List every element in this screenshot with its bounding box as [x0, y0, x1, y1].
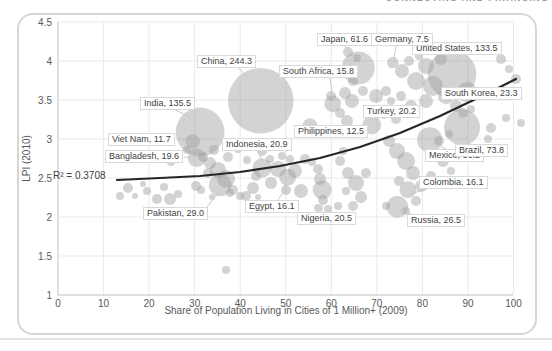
background-bubble [358, 86, 368, 96]
country-label-china: China, 244.3 [197, 55, 256, 68]
background-bubble [143, 187, 151, 195]
country-label-germany: Germany, 7.5 [371, 33, 433, 46]
bubble-colombia [399, 181, 416, 198]
background-bubble [286, 155, 294, 163]
bubble-germany [387, 57, 399, 69]
background-bubble [486, 123, 496, 133]
background-bubble [396, 91, 406, 101]
background-bubble [123, 183, 133, 193]
country-label-nigeria: Nigeria, 20.5 [297, 212, 356, 225]
background-bubble [404, 56, 414, 66]
country-label-philippines: Philippines, 12.5 [294, 125, 368, 138]
background-bubble [132, 193, 138, 199]
background-bubble [407, 72, 425, 90]
country-label-russia: Russia, 26.5 [407, 214, 465, 227]
background-bubble [348, 201, 358, 211]
background-bubble [419, 94, 433, 108]
background-bubble [152, 194, 162, 204]
background-bubble [265, 177, 277, 189]
country-label-india: India, 135.5 [140, 97, 195, 110]
background-bubble [406, 166, 420, 180]
page-bottom-rule [0, 338, 552, 340]
country-label-indonesia: Indonesia, 20.9 [222, 138, 292, 151]
background-bubble [345, 94, 359, 108]
background-bubble [496, 54, 506, 64]
country-label-egypt: Egypt, 16.1 [245, 200, 299, 213]
background-bubble [174, 190, 182, 198]
background-bubble [247, 182, 259, 194]
country-label-bangladesh: Bangladesh, 19.6 [105, 150, 183, 163]
y-tick-label: 3.5 [38, 95, 52, 106]
background-bubble [160, 183, 168, 191]
y-tick-label: 4.5 [38, 17, 52, 28]
background-bubble [505, 65, 513, 73]
background-bubble [361, 168, 371, 178]
background-bubble [335, 156, 345, 166]
y-axis-title: LPI (2010) [21, 135, 32, 182]
country-label-turkey: Turkey, 20.2 [363, 105, 420, 118]
y-tick-label: 1 [46, 290, 52, 301]
x-axis-title: Share of Population Living in Cities of … [58, 305, 514, 316]
background-bubble [411, 196, 421, 206]
background-bubble [484, 135, 492, 143]
background-bubble [222, 266, 230, 274]
background-bubble [294, 184, 308, 198]
background-bubble [209, 194, 215, 200]
background-bubble [278, 152, 286, 160]
country-label-south-africa: South Africa, 15.8 [279, 65, 358, 78]
y-tick-label: 4 [46, 56, 52, 67]
background-bubble [517, 119, 525, 127]
background-bubble [191, 181, 201, 191]
background-bubble [334, 202, 342, 210]
bubble-pakistan [209, 174, 232, 197]
background-bubble [381, 86, 391, 96]
y-tick-label: 1.5 [38, 251, 52, 262]
country-label-colombia: Colombia, 16.1 [419, 176, 488, 189]
y-tick-label: 2.5 [38, 173, 52, 184]
background-bubble [348, 175, 364, 191]
background-bubble [140, 181, 146, 187]
bubble-russia [387, 196, 409, 218]
bubble-viet-nam [186, 134, 200, 148]
country-label-pakistan: Pakistan, 29.0 [143, 207, 208, 220]
country-label-south-korea: South Korea, 23.3 [441, 87, 522, 100]
background-bubble [243, 156, 251, 164]
page: CONNECTING AND FINANCING 010203040506070… [0, 0, 552, 351]
background-bubble [313, 164, 323, 174]
background-bubble [342, 187, 350, 195]
bubble-brazil [444, 109, 480, 145]
background-bubble [116, 192, 124, 200]
leader-line [394, 46, 396, 59]
country-label-japan: Japan, 61.6 [317, 33, 372, 46]
y-tick-label: 2 [46, 212, 52, 223]
background-bubble [355, 191, 367, 203]
bubble-egypt [279, 169, 296, 186]
background-bubble [387, 97, 395, 105]
country-label-viet-nam: Viet Nam, 11.7 [108, 133, 175, 146]
background-bubble [447, 167, 455, 175]
y-tick-label: 3 [46, 134, 52, 145]
background-bubble [502, 114, 510, 122]
country-label-brazil: Brazil, 73.8 [455, 144, 508, 157]
background-bubble [223, 152, 233, 162]
bubble-nigeria [313, 180, 332, 199]
background-bubble [314, 204, 322, 212]
r-squared-annotation: R² = 0.3708 [53, 170, 106, 181]
background-bubble [369, 89, 383, 103]
